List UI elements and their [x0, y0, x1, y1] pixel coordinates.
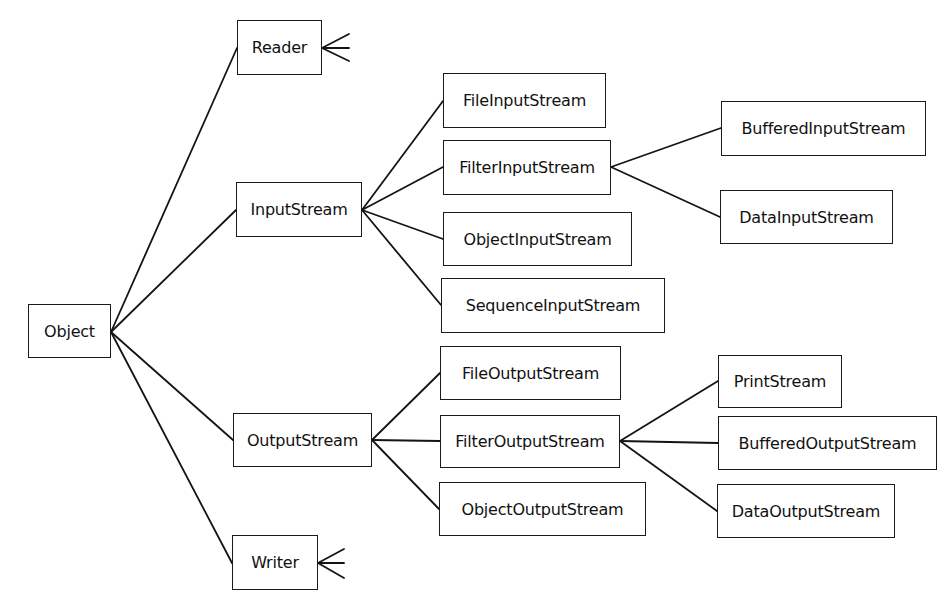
- node-inputstream: InputStream: [236, 182, 362, 237]
- node-writer: Writer: [232, 535, 318, 590]
- node-inputstream-label: InputStream: [250, 200, 347, 219]
- edge-filteroutputstream-printstream: [620, 381, 718, 441]
- node-outputstream: OutputStream: [233, 413, 372, 467]
- node-bufferedoutputstream-label: BufferedOutputStream: [739, 434, 917, 453]
- node-datainputstream-label: DataInputStream: [739, 208, 874, 227]
- node-filteroutputstream: FilterOutputStream: [440, 415, 620, 468]
- edge-filterinputstream-bufferedinputstream: [611, 128, 721, 167]
- node-objectoutputstream: ObjectOutputStream: [439, 482, 646, 536]
- edge-outputstream-fileoutputstream: [372, 373, 440, 440]
- edge-object-outputstream: [111, 332, 233, 440]
- node-reader: Reader: [237, 20, 322, 75]
- node-printstream: PrintStream: [718, 355, 842, 408]
- node-filterinputstream-label: FilterInputStream: [459, 158, 595, 177]
- node-sequenceinputstream: SequenceInputStream: [441, 278, 665, 333]
- edge-outputstream-objectoutputstream: [372, 440, 439, 509]
- node-object-label: Object: [44, 322, 95, 341]
- node-objectinputstream: ObjectInputStream: [443, 212, 632, 266]
- edge-object-inputstream: [111, 210, 236, 332]
- node-filteroutputstream-label: FilterOutputStream: [455, 432, 605, 451]
- node-fileinputstream: FileInputStream: [443, 73, 606, 128]
- class-hierarchy-diagram: Object Reader InputStream OutputStream W…: [0, 0, 950, 602]
- node-objectinputstream-label: ObjectInputStream: [463, 230, 611, 249]
- edge-outputstream-filteroutputstream: [372, 440, 440, 441]
- node-fileinputstream-label: FileInputStream: [463, 91, 586, 110]
- node-bufferedinputstream-label: BufferedInputStream: [742, 119, 906, 138]
- edge-inputstream-fileinputstream: [362, 101, 443, 210]
- node-writer-label: Writer: [251, 553, 299, 572]
- edge-filterinputstream-datainputstream: [611, 167, 720, 217]
- node-bufferedoutputstream: BufferedOutputStream: [718, 416, 937, 470]
- node-filterinputstream: FilterInputStream: [443, 140, 611, 195]
- reader-subtree-fork-icon: [322, 34, 349, 61]
- node-dataoutputstream: DataOutputStream: [717, 484, 895, 538]
- node-reader-label: Reader: [252, 38, 307, 57]
- node-printstream-label: PrintStream: [734, 372, 827, 391]
- node-fileoutputstream: FileOutputStream: [440, 346, 621, 400]
- node-dataoutputstream-label: DataOutputStream: [732, 502, 880, 521]
- edge-object-reader: [111, 48, 237, 332]
- node-object: Object: [28, 304, 111, 358]
- node-bufferedinputstream: BufferedInputStream: [721, 101, 926, 156]
- node-fileoutputstream-label: FileOutputStream: [462, 364, 599, 383]
- edge-filteroutputstream-bufferedoutputstream: [620, 441, 718, 443]
- writer-subtree-fork-icon: [318, 549, 344, 578]
- edge-inputstream-filterinputstream: [362, 167, 443, 210]
- node-objectoutputstream-label: ObjectOutputStream: [462, 500, 624, 519]
- node-outputstream-label: OutputStream: [247, 431, 358, 450]
- node-datainputstream: DataInputStream: [720, 190, 893, 244]
- edge-object-writer: [111, 332, 232, 563]
- node-sequenceinputstream-label: SequenceInputStream: [466, 296, 640, 315]
